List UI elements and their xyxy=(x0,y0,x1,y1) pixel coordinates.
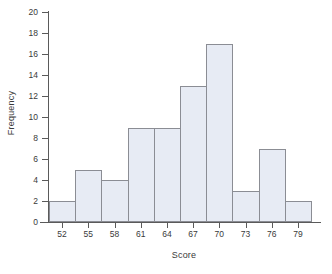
y-tick-label: 12 xyxy=(16,92,38,101)
y-tick-label: 8 xyxy=(16,134,38,143)
histogram-bar xyxy=(128,128,155,223)
x-tick-label: 64 xyxy=(154,230,180,239)
x-tick-label: 76 xyxy=(259,230,285,239)
y-tick-mark xyxy=(42,96,48,97)
histogram-chart: Frequency 02468101214161820 525558616467… xyxy=(0,0,332,274)
histogram-bar xyxy=(101,180,128,222)
histogram-bar xyxy=(154,128,181,223)
histogram-bar xyxy=(75,170,102,223)
x-axis-line xyxy=(40,222,321,223)
x-tick-label: 73 xyxy=(233,230,259,239)
x-tick-label: 61 xyxy=(128,230,154,239)
y-tick-mark xyxy=(42,180,48,181)
histogram-bar xyxy=(285,201,312,222)
x-tick-mark xyxy=(272,223,273,228)
x-tick-mark xyxy=(298,223,299,228)
y-tick-label: 2 xyxy=(16,197,38,206)
x-tick-mark xyxy=(141,223,142,228)
y-tick-mark xyxy=(42,201,48,202)
x-tick-mark xyxy=(62,223,63,228)
x-tick-label: 55 xyxy=(75,230,101,239)
x-tick-mark xyxy=(88,223,89,228)
y-tick-mark xyxy=(42,75,48,76)
x-tick-label: 52 xyxy=(49,230,75,239)
x-tick-mark xyxy=(219,223,220,228)
y-tick-mark xyxy=(42,222,48,223)
x-tick-mark xyxy=(115,223,116,228)
y-tick-label: 0 xyxy=(16,218,38,227)
x-tick-label: 70 xyxy=(206,230,232,239)
y-tick-label: 6 xyxy=(16,155,38,164)
histogram-bar xyxy=(180,86,207,223)
x-axis-title: Score xyxy=(48,250,320,260)
histogram-bar xyxy=(232,191,259,223)
x-tick-mark xyxy=(246,223,247,228)
y-tick-mark xyxy=(42,33,48,34)
x-tick-label: 67 xyxy=(180,230,206,239)
histogram-bar xyxy=(259,149,286,223)
y-tick-mark xyxy=(42,159,48,160)
y-tick-label: 18 xyxy=(16,29,38,38)
y-axis-title: Frequency xyxy=(6,78,16,148)
y-tick-label: 10 xyxy=(16,113,38,122)
y-tick-label: 16 xyxy=(16,50,38,59)
y-tick-mark xyxy=(42,12,48,13)
y-tick-mark xyxy=(42,138,48,139)
x-tick-mark xyxy=(167,223,168,228)
y-tick-label: 14 xyxy=(16,71,38,80)
x-tick-mark xyxy=(193,223,194,228)
histogram-bar xyxy=(49,201,76,222)
bar-series xyxy=(49,12,311,222)
y-tick-label: 4 xyxy=(16,176,38,185)
y-tick-mark xyxy=(42,54,48,55)
histogram-bar xyxy=(206,44,233,223)
y-tick-mark xyxy=(42,117,48,118)
x-tick-label: 79 xyxy=(285,230,311,239)
y-tick-label: 20 xyxy=(16,8,38,17)
x-tick-label: 58 xyxy=(102,230,128,239)
